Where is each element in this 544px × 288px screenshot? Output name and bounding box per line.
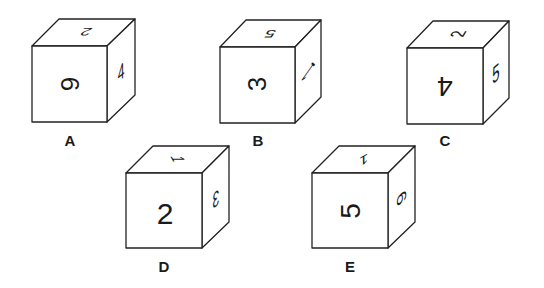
cube-a-front-number: 6: [55, 77, 85, 91]
cube-a-label: A: [65, 132, 76, 149]
cube-d: 2 1 3 D: [126, 146, 229, 275]
cube-d-front-number: 2: [157, 197, 174, 230]
cube-b-front-number: 3: [242, 77, 272, 91]
cube-e-label: E: [345, 258, 355, 275]
cube-b-label: B: [253, 132, 264, 149]
cube-a: 6 2 4 A: [32, 19, 135, 149]
cube-c-label: C: [440, 132, 451, 149]
cube-e: 5 1 6 E: [312, 146, 415, 275]
cube-b: 3 5 1 B: [220, 20, 321, 149]
cube-d-top-number: 1: [166, 156, 189, 162]
dice-figure: 6 2 4 A 3 5 1 B 4 2 5 C 2 1 3 D 5: [0, 0, 544, 288]
cube-e-front-number: 5: [335, 203, 366, 219]
cube-c-front-number: 4: [437, 71, 453, 102]
cube-d-label: D: [159, 258, 170, 275]
cube-c-top-number: 2: [444, 31, 471, 38]
cube-c: 4 2 5 C: [407, 21, 509, 149]
